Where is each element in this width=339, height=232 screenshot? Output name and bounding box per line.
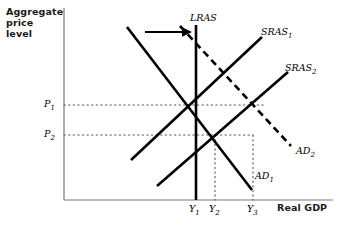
x-axis-title: Real GDP [277, 202, 327, 213]
y-tick-label-p2: P2 [44, 128, 55, 142]
curve-label-ad1-sub: 1 [269, 176, 273, 184]
y-tick-sub-p1: 1 [50, 104, 54, 112]
curve-label-ad2: AD2 [296, 145, 315, 159]
x-tick-label-y3: Y3 [247, 203, 258, 217]
curve-label-lras: LRAS [190, 12, 217, 26]
x-tick-sub-y1: 1 [195, 209, 199, 217]
curve-label-sras1-sub: 1 [288, 32, 292, 40]
x-tick-sub-y2: 2 [215, 209, 219, 217]
curve-label-sras2-base: SRAS [285, 62, 312, 73]
curve-sras2 [157, 72, 288, 186]
y-axis-title: Aggregate price level [6, 6, 62, 39]
curve-label-sras2: SRAS2 [285, 62, 317, 76]
curve-label-sras1: SRAS1 [261, 26, 293, 40]
curve-ad1 [127, 27, 252, 190]
shift-arrow-icon [145, 27, 192, 37]
curve-label-sras1-base: SRAS [261, 26, 288, 37]
x-tick-sub-y3: 3 [253, 209, 257, 217]
x-tick-label-y1: Y1 [189, 203, 200, 217]
curve-label-ad1-base: AD [255, 170, 269, 181]
aggregate-supply-demand-diagram: Aggregate price level Real GDP P1 P2 Y1 … [0, 0, 339, 232]
curve-label-ad2-sub: 2 [310, 151, 314, 159]
curve-label-sras2-sub: 2 [312, 68, 316, 76]
x-tick-label-y2: Y2 [209, 203, 220, 217]
curve-label-ad1: AD1 [255, 170, 274, 184]
y-tick-label-p1: P1 [44, 98, 55, 112]
curve-label-lras-base: LRAS [190, 12, 217, 23]
y-tick-sub-p2: 2 [50, 134, 54, 142]
curve-label-ad2-base: AD [296, 145, 310, 156]
